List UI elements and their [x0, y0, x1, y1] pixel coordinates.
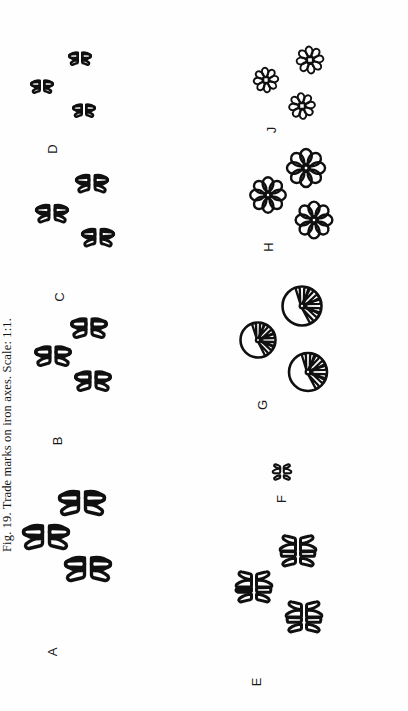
figure-caption-text: Fig. 19. Trade marks on iron axes. Scale…: [0, 251, 15, 711]
panel-b-artwork: [18, 300, 134, 460]
panel-c: C: [20, 150, 136, 310]
panel-j-artwork: [230, 18, 350, 138]
panel-e: E: [218, 505, 338, 695]
panel-a: A: [6, 470, 126, 670]
figure-caption: Fig. 19. Trade marks on iron axes. Scale…: [0, 251, 15, 711]
panel-e-artwork: [218, 505, 338, 695]
panel-label-b: B: [51, 431, 65, 451]
panel-label-f: F: [275, 489, 289, 509]
panel-h: H: [228, 120, 348, 260]
panel-f-artwork: [240, 430, 340, 510]
panel-d-artwork: [14, 22, 130, 162]
panel-d: D: [14, 22, 130, 162]
panel-a-artwork: [6, 470, 126, 670]
panel-g-artwork: [222, 250, 342, 420]
panel-label-a: A: [46, 642, 60, 662]
panel-c-artwork: [20, 150, 136, 310]
panel-h-artwork: [228, 120, 348, 260]
panel-g: G: [222, 250, 342, 420]
panel-b: B: [18, 300, 134, 460]
panel-f: F: [240, 430, 340, 510]
panel-label-c: C: [53, 287, 67, 307]
panel-label-e: E: [250, 672, 264, 692]
panel-label-g: G: [256, 395, 270, 415]
figure-page: A: [0, 0, 408, 711]
panel-j: J: [230, 18, 350, 138]
panel-label-j: J: [265, 120, 279, 140]
panel-label-d: D: [46, 139, 60, 159]
panel-label-h: H: [262, 237, 276, 257]
